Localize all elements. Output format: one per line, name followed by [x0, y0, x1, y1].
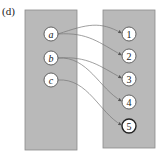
- node-label: c: [49, 75, 54, 86]
- mapping-diagram: (d) abc 12345: [0, 0, 160, 151]
- node-label: 5: [127, 121, 132, 132]
- node-label: b: [49, 53, 54, 64]
- node-label: 4: [127, 97, 132, 108]
- node-label: 3: [127, 74, 132, 85]
- diagram-label: (d): [2, 5, 15, 18]
- domain-node-c: c: [44, 73, 58, 87]
- node-label: a: [49, 29, 54, 40]
- codomain-node-5: 5: [122, 119, 136, 133]
- node-label: 2: [127, 51, 132, 62]
- codomain-node-1: 1: [122, 27, 136, 41]
- domain-nodes: abc: [44, 27, 58, 87]
- codomain-node-4: 4: [122, 95, 136, 109]
- codomain-node-2: 2: [122, 49, 136, 63]
- domain-node-b: b: [44, 51, 58, 65]
- codomain-node-3: 3: [122, 72, 136, 86]
- domain-node-a: a: [44, 27, 58, 41]
- node-label: 1: [127, 29, 132, 40]
